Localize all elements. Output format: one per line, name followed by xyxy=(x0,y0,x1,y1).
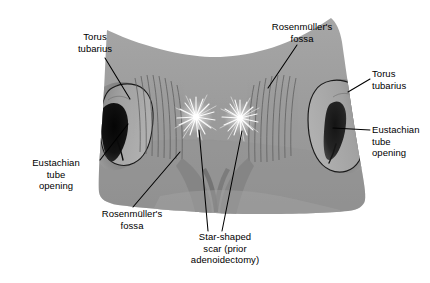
label-line: Star-shaped xyxy=(168,231,282,243)
label-line: adenoidectomy) xyxy=(168,254,282,266)
label-line: fossa xyxy=(80,220,184,232)
label-line: tube xyxy=(372,136,430,148)
label-line: scar (prior xyxy=(168,243,282,255)
label-eustachian-tube-opening-left: Eustachian tube opening xyxy=(8,157,104,192)
label-star-shaped-scar: Star-shaped scar (prior adenoidectomy) xyxy=(168,231,282,266)
leader-torus-tubarius-right xyxy=(348,79,370,92)
label-torus-tubarius-left: Torus tubarius xyxy=(50,31,140,54)
label-torus-tubarius-right: Torus tubarius xyxy=(372,68,430,91)
label-line: Rosenmüller's xyxy=(248,21,356,33)
label-rosenmuller-fossa-bottom-left: Rosenmüller's fossa xyxy=(80,208,184,231)
label-line: opening xyxy=(372,147,430,159)
label-line: Eustachian xyxy=(372,124,430,136)
label-line: Torus xyxy=(372,68,430,80)
label-line: Eustachian xyxy=(8,157,104,169)
label-eustachian-tube-opening-right: Eustachian tube opening xyxy=(372,124,430,159)
anatomical-figure: Torus tubarius Rosenmüller's fossa Torus… xyxy=(0,0,430,283)
label-line: tubarius xyxy=(372,80,430,92)
label-line: Rosenmüller's xyxy=(80,208,184,220)
label-line: tubarius xyxy=(50,43,140,55)
label-line: fossa xyxy=(248,33,356,45)
label-line: Torus xyxy=(50,31,140,43)
label-line: tube xyxy=(8,169,104,181)
label-line: opening xyxy=(8,180,104,192)
label-rosenmuller-fossa-top-right: Rosenmüller's fossa xyxy=(248,21,356,44)
